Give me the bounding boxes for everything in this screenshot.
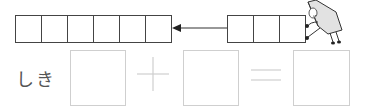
cell xyxy=(146,16,171,42)
result-box[interactable] xyxy=(293,50,350,106)
cell xyxy=(94,16,120,42)
operand2-box[interactable] xyxy=(183,50,239,106)
cell xyxy=(42,16,68,42)
cell xyxy=(228,16,254,42)
right-cell-group xyxy=(227,15,306,43)
equation-label: しき xyxy=(16,65,56,91)
left-cell-group xyxy=(15,15,172,43)
cell xyxy=(16,16,42,42)
arrow-left-icon xyxy=(171,22,229,34)
paper-character-icon xyxy=(296,0,356,46)
operand1-box[interactable] xyxy=(70,50,126,106)
equals-icon xyxy=(251,68,281,82)
cell xyxy=(254,16,280,42)
cell xyxy=(68,16,94,42)
cell xyxy=(120,16,146,42)
plus-icon xyxy=(137,57,169,91)
